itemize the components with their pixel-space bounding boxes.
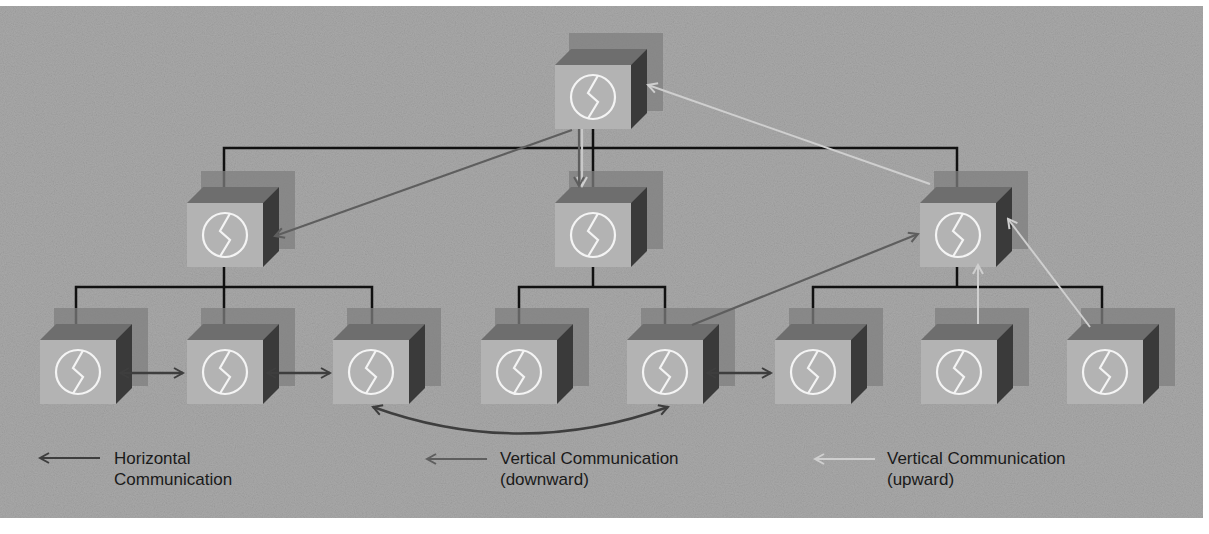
- legend-downward-label: Vertical Communication (downward): [500, 448, 679, 490]
- legend-upward-label: Vertical Communication (upward): [887, 448, 1066, 490]
- legend-horizontal-label: Horizontal Communication: [114, 448, 232, 490]
